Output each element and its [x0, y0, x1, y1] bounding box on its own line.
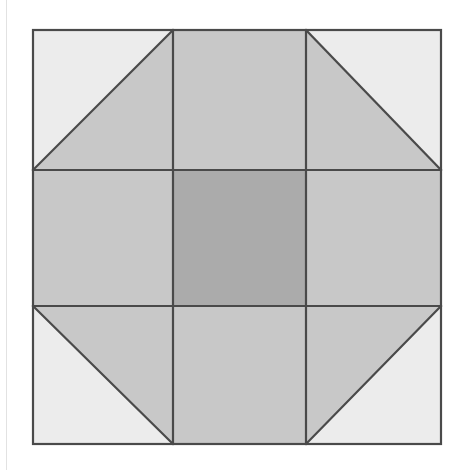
- figure-canvas: [0, 0, 462, 470]
- bottom-center-square-fill: [173, 306, 306, 444]
- middle-right-square-fill: [306, 170, 441, 306]
- quilt-block-diagram: [0, 0, 462, 470]
- center-square-fill: [173, 170, 306, 306]
- middle-left-square-fill: [33, 170, 173, 306]
- fills-layer: [33, 30, 441, 444]
- top-center-square-fill: [173, 30, 306, 170]
